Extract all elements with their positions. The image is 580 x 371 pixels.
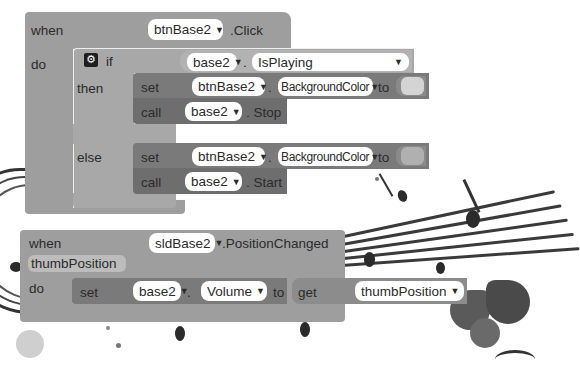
if-label: if <box>106 55 113 69</box>
dot-label: . <box>268 151 272 165</box>
property-dropdown-isplaying[interactable]: IsPlaying ▼ <box>252 53 409 71</box>
component-name: btnBase2 <box>198 79 255 94</box>
call-label: call <box>141 106 161 120</box>
component-dropdown-base2[interactable]: base2 ▼ <box>185 102 242 121</box>
when-label: when <box>29 237 61 251</box>
component-name: sldBase2 <box>155 236 211 251</box>
music-note-icon <box>364 252 375 267</box>
component-dropdown-btnbase2[interactable]: btnBase2 ▼ <box>192 77 265 96</box>
set-label: set <box>141 81 159 95</box>
music-note-icon <box>175 326 185 341</box>
dropdown-caret-icon: ▼ <box>228 177 241 187</box>
event-block-left-rail <box>25 48 73 210</box>
dot-label: . <box>243 56 247 70</box>
to-label: to <box>378 81 389 95</box>
to-label: to <box>378 151 389 165</box>
music-note-stem-icon <box>379 173 394 197</box>
staff-line-icon <box>320 190 555 243</box>
dropdown-caret-icon: ▼ <box>211 25 224 35</box>
sparkle-icon <box>375 177 379 181</box>
sparkle-icon <box>116 343 121 348</box>
parameter-label: thumbPosition <box>31 257 117 271</box>
component-dropdown-base2[interactable]: base2 ▼ <box>133 281 181 301</box>
to-label: to <box>273 286 284 300</box>
property-dropdown-volume[interactable]: Volume ▼ <box>201 281 267 301</box>
staff-line-icon <box>340 247 580 267</box>
swirl-icon <box>495 350 535 369</box>
component-dropdown-btnbase2[interactable]: btnBase2 ▼ <box>148 19 223 40</box>
set-label: set <box>80 286 98 300</box>
component-name: base2 <box>191 104 228 119</box>
color-swatch[interactable] <box>401 77 424 95</box>
property-name: IsPlaying <box>258 55 313 70</box>
sparkle-icon <box>106 326 110 330</box>
dropdown-caret-icon: ▼ <box>252 286 265 296</box>
dropdown-caret-icon: ▼ <box>255 152 268 162</box>
component-name: btnBase2 <box>198 149 255 164</box>
when-label: when <box>31 24 63 38</box>
music-note-icon <box>436 262 445 274</box>
event-name-label: .PositionChanged <box>222 237 329 251</box>
component-dropdown-base2[interactable]: base2 ▼ <box>185 172 242 191</box>
color-swatch[interactable] <box>401 147 424 165</box>
dropdown-caret-icon: ▼ <box>255 82 268 92</box>
then-label: then <box>77 82 103 96</box>
component-dropdown-btnbase2[interactable]: btnBase2 ▼ <box>192 147 265 166</box>
component-name: base2 <box>139 284 176 299</box>
music-note-icon <box>396 189 409 203</box>
dropdown-caret-icon: ▼ <box>230 57 243 67</box>
component-name: base2 <box>193 55 230 70</box>
do-label: do <box>29 282 44 296</box>
method-label: . Start <box>246 176 282 190</box>
property-dropdown-backgroundcolor[interactable]: BackgroundColor ▼ <box>278 147 373 166</box>
if-block-then-end <box>73 124 176 144</box>
dropdown-caret-icon: ▼ <box>390 57 403 67</box>
get-label: get <box>298 286 317 300</box>
method-label: . Stop <box>246 106 281 120</box>
variable-dropdown-thumbposition[interactable]: thumbPosition ▼ <box>355 281 464 301</box>
gear-icon[interactable]: ⚙ <box>84 53 98 67</box>
component-name: base2 <box>191 174 228 189</box>
event-name-label: .Click <box>230 24 263 38</box>
property-name: BackgroundColor <box>281 150 369 164</box>
set-label: set <box>141 151 159 165</box>
dot-label: . <box>268 81 272 95</box>
dropdown-caret-icon: ▼ <box>447 286 460 296</box>
dot-label: . <box>187 286 191 300</box>
variable-name: thumbPosition <box>361 284 447 299</box>
component-name: btnBase2 <box>154 22 211 37</box>
do-label: do <box>31 58 46 72</box>
call-label: call <box>141 176 161 190</box>
if-block-bottom <box>73 193 176 208</box>
component-dropdown-sldbase2[interactable]: sldBase2 ▼ <box>149 233 215 253</box>
property-name: BackgroundColor <box>281 80 369 94</box>
property-name: Volume <box>207 284 252 299</box>
music-note-icon <box>300 322 310 337</box>
swirl-icon <box>16 330 44 358</box>
dropdown-caret-icon: ▼ <box>228 107 241 117</box>
component-dropdown-base2[interactable]: base2 ▼ <box>187 53 237 71</box>
else-label: else <box>77 151 102 165</box>
property-dropdown-backgroundcolor[interactable]: BackgroundColor ▼ <box>278 77 373 96</box>
